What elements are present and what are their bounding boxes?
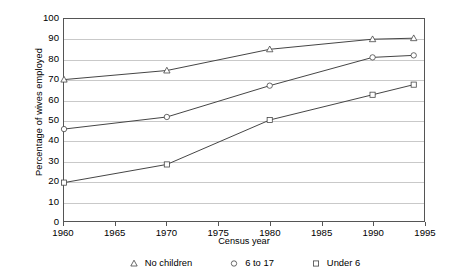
series-6-to-17 <box>61 53 416 132</box>
square-marker <box>370 92 375 97</box>
legend-label: Under 6 <box>327 257 360 268</box>
square-marker <box>411 82 416 87</box>
circle-marker <box>61 126 66 131</box>
legend-label: No children <box>145 257 192 268</box>
y-tick-label: 100 <box>3 13 59 23</box>
y-tick-label: 30 <box>3 156 59 166</box>
x-tick-mark <box>115 222 116 226</box>
y-axis-tick-labels: 1009080706050403020100 <box>0 18 59 222</box>
y-tick-label: 60 <box>3 95 59 105</box>
series-no-children <box>61 35 417 82</box>
circle-marker <box>411 53 416 58</box>
x-axis-title: Census year <box>63 236 425 246</box>
y-tick-label: 0 <box>3 217 59 227</box>
legend-item[interactable]: 6 to 17 <box>228 257 274 268</box>
x-tick-mark <box>425 222 426 226</box>
triangle-marker <box>128 258 140 268</box>
series-line <box>64 38 414 79</box>
y-tick-label: 20 <box>3 176 59 186</box>
y-tick-label: 40 <box>3 135 59 145</box>
y-tick-label: 80 <box>3 54 59 64</box>
series-under-6 <box>61 82 416 185</box>
x-tick-mark <box>166 222 167 226</box>
y-tick-label: 90 <box>3 33 59 43</box>
legend-label: 6 to 17 <box>245 257 274 268</box>
x-tick-mark <box>270 222 271 226</box>
chart-legend: No children6 to 17Under 6 <box>63 257 425 268</box>
legend-item[interactable]: No children <box>128 257 192 268</box>
circle-marker <box>164 114 169 119</box>
x-tick-mark <box>218 222 219 226</box>
y-tick-label: 10 <box>3 197 59 207</box>
square-marker <box>310 258 322 268</box>
triangle-marker <box>131 260 137 266</box>
x-tick-mark <box>322 222 323 226</box>
circle-marker <box>370 55 375 60</box>
square-marker <box>313 260 318 265</box>
series-line <box>64 55 414 129</box>
series-line <box>64 85 414 183</box>
circle-marker <box>267 83 272 88</box>
circle-marker <box>228 258 240 268</box>
y-tick-label: 70 <box>3 74 59 84</box>
square-marker <box>267 117 272 122</box>
plot-area <box>63 18 425 222</box>
y-tick-label: 50 <box>3 115 59 125</box>
line-chart: Percentage of wives employed 10090807060… <box>0 0 460 280</box>
square-marker <box>164 162 169 167</box>
square-marker <box>61 180 66 185</box>
circle-marker <box>231 260 236 265</box>
series-layer <box>64 19 424 221</box>
x-tick-mark <box>373 222 374 226</box>
x-tick-mark <box>63 222 64 226</box>
legend-item[interactable]: Under 6 <box>310 257 360 268</box>
